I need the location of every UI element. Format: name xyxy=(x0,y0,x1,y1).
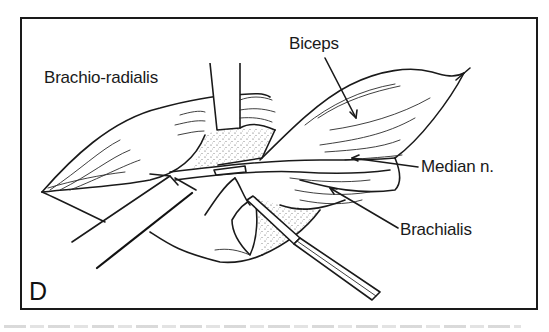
label-median-nerve: Median n. xyxy=(421,158,494,175)
anatomical-figure: Brachio-radialis Biceps Median n. Brachi… xyxy=(0,0,549,332)
brachialis-leader xyxy=(330,188,398,228)
biceps-leader xyxy=(325,58,356,118)
cropped-caption xyxy=(0,322,549,332)
panel-letter: D xyxy=(29,279,47,304)
biceps-muscle xyxy=(260,68,470,160)
lower-tissue xyxy=(42,178,262,262)
label-biceps: Biceps xyxy=(289,35,339,52)
exposed-tissue-stipple xyxy=(192,128,275,170)
caption-text-fragment xyxy=(4,325,521,328)
vertical-retractor xyxy=(210,63,275,130)
label-brachialis: Brachialis xyxy=(400,221,472,238)
label-brachioradialis: Brachio-radialis xyxy=(44,69,158,86)
